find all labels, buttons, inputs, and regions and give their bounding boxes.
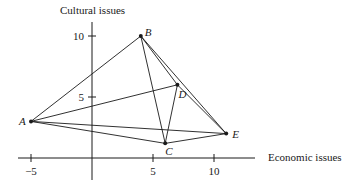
edge-DC [165,85,177,144]
point-label-D: D [177,88,186,100]
edge-BE [141,36,226,134]
x-tick-label: 10 [209,165,221,177]
edge-CE [165,134,226,144]
x-tick-label: −5 [25,165,37,177]
y-tick-label: 5 [79,91,85,103]
point-label-A: A [18,115,26,127]
y-axis-label: Cultural issues [60,4,125,16]
point-label-C: C [165,145,173,157]
spatial-diagram: −5510510 Cultural issues Economic issues… [0,0,357,191]
point-label-E: E [231,128,239,140]
point-B [139,34,143,38]
y-tick-label: 10 [73,30,85,42]
point-label-B: B [145,26,152,38]
edge-AB [31,36,141,121]
point-A [29,119,33,123]
edges [31,36,226,143]
edge-AC [31,121,165,143]
point-D [175,83,179,87]
edge-AE [31,121,226,133]
x-tick-label: 5 [150,165,156,177]
x-axis-label: Economic issues [268,151,342,163]
point-E [224,132,228,136]
edge-AD [31,85,177,122]
